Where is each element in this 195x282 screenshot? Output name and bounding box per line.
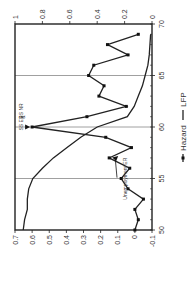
left-y-tick-label: 0 xyxy=(131,235,138,239)
left-y-tick-label: -0.1 xyxy=(149,235,156,247)
hazard-marker xyxy=(127,53,130,56)
left-y-tick-label: 0.2 xyxy=(97,235,104,245)
left-y-tick-label: 0.4 xyxy=(63,235,70,245)
x-tick-label: 70 xyxy=(158,20,165,28)
right-y-tick-label: 0.4 xyxy=(94,9,101,19)
hazard-marker xyxy=(104,136,107,139)
hazard-marker xyxy=(97,95,100,98)
plot-area: 50556065700.70.60.50.40.30.20.10-0.110.8… xyxy=(12,9,189,247)
legend-hazard-marker xyxy=(182,157,185,160)
hazard-marker xyxy=(103,84,106,87)
left-y-tick-label: 0.3 xyxy=(80,235,87,245)
hazard-marker xyxy=(130,146,133,149)
hazard-marker xyxy=(133,208,136,211)
hazard-marker xyxy=(87,74,90,77)
hazard-marker xyxy=(128,167,131,170)
hazard-marker xyxy=(85,115,88,118)
right-y-tick-label: 1 xyxy=(12,15,19,19)
annotation-unemployment-er: Unemployment ER xyxy=(122,157,128,199)
right-y-tick-label: 0.6 xyxy=(66,9,73,19)
hazard-marker xyxy=(92,64,95,67)
hazard-marker xyxy=(137,33,140,36)
left-y-tick-label: 0.1 xyxy=(114,235,121,245)
hazard-marker xyxy=(133,229,136,232)
legend-lfp-label: LFP xyxy=(179,92,188,107)
annotation-ss-er-line: SS NR xyxy=(18,103,24,119)
x-tick-label: 55 xyxy=(158,175,165,183)
hazard-marker xyxy=(106,43,109,46)
rotated-line-chart: 50556065700.70.60.50.40.30.20.10-0.110.8… xyxy=(0,0,195,282)
right-y-tick-label: 0 xyxy=(149,15,156,19)
hazard-marker xyxy=(142,198,145,201)
x-tick-label: 65 xyxy=(158,72,165,80)
hazard-marker xyxy=(108,156,111,159)
left-y-tick-label: 0.6 xyxy=(29,235,36,245)
chart-container: 50556065700.70.60.50.40.30.20.10-0.110.8… xyxy=(0,0,195,282)
hazard-marker xyxy=(31,126,34,129)
hazard-marker xyxy=(125,105,128,108)
x-tick-label: 60 xyxy=(158,123,165,131)
left-y-tick-label: 0.5 xyxy=(46,235,53,245)
legend-hazard-label: Hazard xyxy=(179,125,188,151)
right-y-tick-label: 0.8 xyxy=(39,9,46,19)
x-tick-label: 50 xyxy=(158,226,165,234)
right-y-tick-label: 0.2 xyxy=(121,9,128,19)
lfp-line xyxy=(23,34,150,230)
annotation-ss-arrowhead xyxy=(25,125,30,130)
hazard-marker xyxy=(137,218,140,221)
left-y-tick-label: 0.7 xyxy=(12,235,19,245)
